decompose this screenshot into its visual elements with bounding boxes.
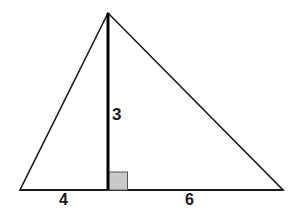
triangle-diagram-svg — [0, 0, 295, 214]
triangle-outline — [20, 13, 283, 190]
right-angle-marker — [109, 172, 128, 190]
altitude-length-label: 3 — [112, 106, 121, 123]
geometry-figure: 3 4 6 — [0, 0, 295, 214]
base-right-segment-label: 6 — [185, 192, 194, 208]
base-left-segment-label: 4 — [59, 192, 68, 208]
